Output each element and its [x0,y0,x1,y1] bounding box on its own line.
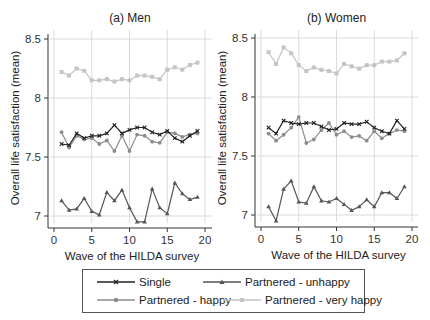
data-point-triangle-marker [296,200,301,204]
data-point-x-marker [113,123,117,127]
x-tick-label: 5 [296,233,302,245]
data-point-circle-marker [135,133,139,137]
y-tick-label: 7.5 [232,150,248,162]
data-point-circle-marker [380,136,384,140]
data-point-square-marker [180,68,184,72]
data-point-circle-marker [320,128,324,132]
data-point-circle-marker [150,140,154,144]
legend-swatch-triangle-icon [203,277,241,287]
legend-swatch-single-icon [97,277,135,287]
data-point-circle-marker [365,139,369,143]
panel-title: (b) Women [307,11,366,25]
data-point-square-marker [188,63,192,67]
legend-entry-partnered-happy: Partnered - happy [97,294,231,306]
y-tick-label: 8.5 [232,32,248,44]
x-tick-label: 5 [89,234,95,246]
data-point-triangle-marker [120,188,125,192]
data-point-circle-marker [267,132,271,136]
x-tick-label: 0 [258,233,264,245]
x-tick-label: 0 [51,234,57,246]
data-point-square-marker [112,79,116,83]
data-point-triangle-marker [173,181,178,185]
data-point-circle-marker [60,130,64,134]
data-point-circle-marker [357,134,361,138]
data-point-circle-marker [158,141,162,145]
x-tick-label: 15 [368,233,381,245]
data-point-square-marker [365,63,369,67]
data-point-square-marker [165,68,169,72]
data-point-triangle-marker [402,184,407,188]
y-tick-label: 7.5 [25,151,41,163]
legend-entry-partnered-unhappy: Partnered - unhappy [203,276,350,288]
data-point-square-marker [150,75,154,79]
legend-entry-partnered-very-happy: Partnered - very happy [223,294,382,306]
chart-panel-women: (b) Women77.588.505101520Wave of the HIL… [216,11,418,261]
data-point-circle-marker [335,133,339,137]
data-point-square-marker [289,51,293,55]
data-point-circle-marker [180,135,184,139]
data-point-square-marker [297,63,301,67]
data-point-circle-marker [274,139,278,143]
data-point-square-marker [335,71,339,75]
data-point-square-marker [158,77,162,81]
y-tick-label: 7 [242,209,248,221]
data-point-square-marker [372,63,376,67]
data-point-square-marker [357,67,361,71]
data-point-square-marker [90,78,94,82]
legend-swatch-circle-icon [97,295,135,305]
x-axis-label: Wave of the HILDA survey [271,249,406,261]
y-axis-label: Overall life satisfaction (mean) [9,50,21,205]
data-point-square-marker [195,61,199,65]
data-point-triangle-marker [312,184,317,188]
data-point-square-marker [312,66,316,70]
data-point-triangle-marker [195,195,200,199]
data-point-square-marker [135,74,139,78]
data-point-circle-marker [289,126,293,130]
data-point-square-marker [350,64,354,68]
data-point-square-marker [395,58,399,62]
legend-entry-single: Single [97,276,171,288]
data-point-square-marker [120,77,124,81]
y-tick-label: 8 [35,92,41,104]
data-point-square-marker [75,67,79,71]
data-point-square-marker [402,51,406,55]
x-tick-label: 10 [330,233,343,245]
data-point-square-marker [282,45,286,49]
data-point-circle-marker [173,132,177,136]
data-point-triangle-marker [150,186,155,190]
data-point-circle-marker [113,149,117,153]
data-point-triangle-marker [59,198,64,202]
data-point-circle-marker [327,121,331,125]
data-point-triangle-marker [289,178,294,182]
data-point-circle-marker [350,135,354,139]
data-point-square-marker [105,77,109,81]
x-tick-label: 10 [123,234,136,246]
data-point-circle-marker [342,129,346,133]
data-point-x-marker [274,132,278,136]
data-point-square-marker [387,60,391,64]
data-point-circle-marker [304,141,308,145]
data-point-triangle-marker [82,196,87,200]
panel-title: (a) Men [109,11,150,25]
data-point-triangle-marker [105,190,110,194]
data-point-square-marker [67,74,71,78]
y-tick-label: 8.5 [25,33,41,45]
legend-label: Partnered - unhappy [245,276,350,288]
y-axis-label: Overall life satisfaction (mean) [216,50,228,205]
chart-legend: Single Partnered - unhappy Partnered - h… [82,269,365,313]
data-point-square-marker [342,62,346,66]
x-tick-label: 20 [406,233,419,245]
data-point-triangle-marker [364,197,369,201]
x-axis-label: Wave of the HILDA survey [65,250,200,262]
data-point-square-marker [327,69,331,73]
data-point-square-marker [97,78,101,82]
data-point-circle-marker [297,115,301,119]
data-point-triangle-marker [334,196,339,200]
data-point-square-marker [173,65,177,69]
data-point-square-marker [304,69,308,73]
chart-panel-men: (a) Men77.588.505101520Wave of the HILDA… [9,11,212,262]
data-point-triangle-marker [127,205,132,209]
data-point-circle-marker [143,134,147,138]
data-point-square-marker [319,68,323,72]
data-point-circle-marker [282,133,286,137]
